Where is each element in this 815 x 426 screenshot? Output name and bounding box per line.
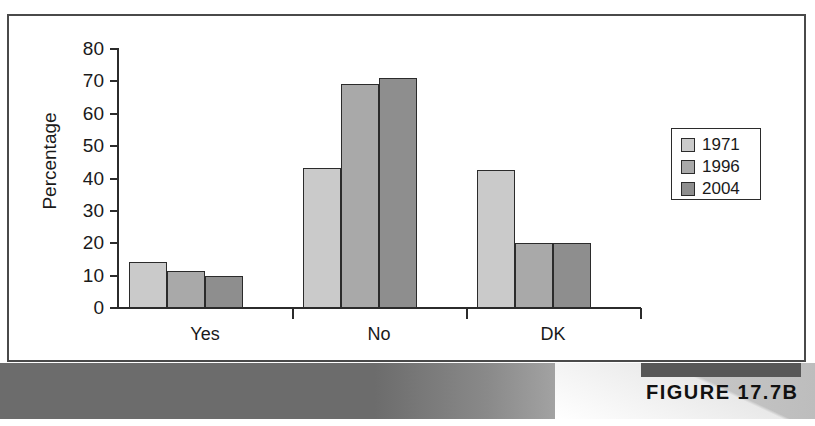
y-tick — [110, 275, 118, 277]
figure-caption: Legitimacy of the Democratic System — [34, 14, 388, 38]
x-tick — [640, 308, 642, 319]
y-tick-label: 60 — [64, 104, 104, 123]
figure-label-band — [641, 363, 801, 377]
legend-swatch-icon — [681, 182, 695, 196]
x-tick — [292, 308, 294, 319]
chart-legend: 197119962004 — [671, 128, 761, 200]
legend-label: 1996 — [702, 158, 740, 175]
bar-no-1996 — [341, 84, 379, 308]
y-tick — [110, 80, 118, 82]
y-tick — [110, 307, 118, 309]
y-tick-label: 10 — [64, 266, 104, 285]
y-tick — [110, 242, 118, 244]
figure-root: Percentage 01020304050607080 YesNoDK 197… — [0, 0, 815, 426]
legend-item-2004: 2004 — [681, 178, 760, 199]
x-tick — [466, 308, 468, 319]
legend-item-1996: 1996 — [681, 156, 760, 177]
bottom-strip — [0, 419, 815, 426]
x-axis-label-yes: Yes — [150, 324, 260, 345]
figure-number-label: FIGURE 17.7B — [646, 381, 798, 404]
y-tick — [110, 48, 118, 50]
bar-dk-2004 — [553, 243, 591, 308]
y-tick — [110, 113, 118, 115]
y-tick-label: 70 — [64, 71, 104, 90]
bar-yes-1996 — [167, 271, 205, 308]
legend-swatch-icon — [681, 138, 695, 152]
y-tick-label: 0 — [64, 298, 104, 317]
legend-item-1971: 1971 — [681, 134, 760, 155]
legend-label: 2004 — [702, 180, 740, 197]
bar-dk-1996 — [515, 243, 553, 308]
legend-swatch-icon — [681, 160, 695, 174]
y-tick — [110, 210, 118, 212]
legend-label: 1971 — [702, 136, 740, 153]
y-tick-label: 40 — [64, 169, 104, 188]
bar-no-1971 — [303, 168, 341, 308]
y-tick — [110, 178, 118, 180]
bar-yes-1971 — [129, 262, 167, 308]
bar-dk-1971 — [477, 170, 515, 308]
y-axis-title: Percentage — [39, 81, 61, 241]
x-axis-label-dk: DK — [498, 324, 608, 345]
y-tick-label: 30 — [64, 201, 104, 220]
y-tick-label: 80 — [64, 39, 104, 58]
x-axis-label-no: No — [324, 324, 434, 345]
bar-yes-2004 — [205, 276, 243, 308]
y-tick-label: 50 — [64, 136, 104, 155]
bar-no-2004 — [379, 78, 417, 308]
y-tick-label: 20 — [64, 233, 104, 252]
y-tick — [110, 145, 118, 147]
